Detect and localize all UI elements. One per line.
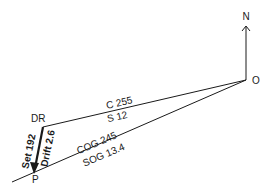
point-p-label: P: [32, 174, 39, 185]
north-label: N: [242, 11, 249, 22]
current-triangle-diagram: N O DR P C 255 S 12 COG 245 SOG 13.4 Set…: [0, 0, 269, 194]
north-arrow: N: [242, 11, 250, 80]
point-o-label: O: [252, 75, 260, 86]
course-label: C 255: [105, 94, 134, 111]
course-line: [43, 80, 246, 127]
point-dr-label: DR: [31, 113, 45, 124]
